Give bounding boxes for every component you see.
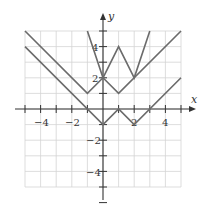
x-tick-label: −4 [34, 117, 49, 128]
y-axis-arrow-icon [100, 13, 106, 20]
x-axis-label: x [191, 93, 198, 106]
y-tick-label: −2 [86, 135, 101, 146]
x-axis-arrow-icon [189, 106, 196, 112]
x-axis: x [15, 93, 198, 112]
coordinate-plane: x y −4 −2 2 4 4 2 −2 −4 [0, 0, 205, 211]
x-tick-label: 4 [162, 117, 168, 128]
y-axis-label: y [107, 10, 115, 23]
x-tick-label: −2 [65, 117, 80, 128]
y-tick-label: −4 [86, 167, 101, 178]
